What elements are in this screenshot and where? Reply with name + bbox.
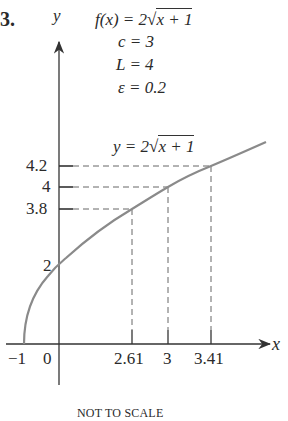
y-axis-label: y xyxy=(53,6,61,26)
curve-label: y = 2√x + 1 xyxy=(113,137,194,157)
function-curve xyxy=(24,142,266,344)
problem-number: 3. xyxy=(0,8,15,31)
function-definition: f(x) = 2√x + 1 xyxy=(95,10,192,30)
not-to-scale-note: NOT TO SCALE xyxy=(77,406,163,421)
x-tick-label-2.61: 2.61 xyxy=(114,349,144,369)
x-tick-label-3.41: 3.41 xyxy=(194,349,224,369)
epsilon-value: ε = 0.2 xyxy=(118,78,166,98)
function-radicand: x + 1 xyxy=(156,8,192,29)
curve-label-lhs: y = 2 xyxy=(113,137,149,156)
vertical-guides xyxy=(132,166,211,330)
sqrt-symbol: √ xyxy=(147,10,156,29)
y-tick-label-4.2: 4.2 xyxy=(26,156,47,176)
y-tick-label-3.8: 3.8 xyxy=(26,199,47,219)
sqrt-symbol: √ xyxy=(149,137,158,156)
x-axis-label: x xyxy=(272,334,280,355)
curve-label-radicand: x + 1 xyxy=(158,135,194,156)
c-value: c = 3 xyxy=(118,32,154,52)
x-tick-label-3: 3 xyxy=(163,349,172,369)
L-value: L = 4 xyxy=(116,55,154,75)
y-tick-label-4: 4 xyxy=(42,177,51,197)
x-tick-label-0: 0 xyxy=(43,349,52,369)
x-tick-marks xyxy=(132,330,211,344)
x-tick-label-neg1: −1 xyxy=(8,349,26,369)
y-tick-marks xyxy=(59,166,73,209)
y-tick-label-2: 2 xyxy=(43,256,52,276)
function-lhs: f(x) = 2 xyxy=(95,10,147,29)
